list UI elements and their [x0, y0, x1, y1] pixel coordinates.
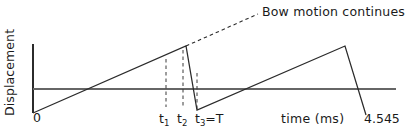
tick-label-t2: t2	[177, 113, 187, 126]
tick-label-t1-sub: 1	[164, 118, 169, 128]
origin-label: 0	[33, 112, 41, 125]
tick-label-t3-suffix: =T	[205, 111, 223, 126]
x-axis-max-label: 4.545	[364, 113, 400, 126]
bow-motion-annotation-label: Bow motion continues	[262, 6, 405, 19]
displacement-waveform	[33, 46, 366, 115]
tick-label-t2-sub: 2	[182, 118, 187, 128]
tick-label-t1: t1	[159, 113, 169, 126]
y-axis-label: Displacement	[4, 42, 18, 116]
tick-label-t3-sub: 3	[200, 118, 205, 128]
x-axis-label: time (ms)	[281, 113, 344, 126]
displacement-time-chart: Displacement 0 t1 t2 t3=T time (ms) 4.54…	[0, 0, 407, 133]
tick-label-t3: t3=T	[195, 113, 223, 126]
bow-motion-dashed-line	[186, 14, 258, 46]
